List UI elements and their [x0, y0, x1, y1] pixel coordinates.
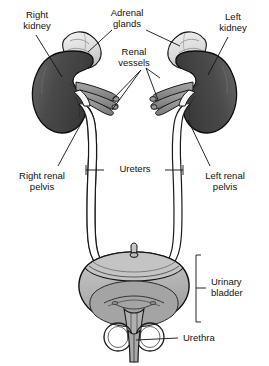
- leader-renal-vessels-b: [112, 70, 141, 110]
- urinary-system-diagram: Right kidney Adrenal glands Renal vessel…: [0, 0, 269, 366]
- label-left-kidney: Left kidney: [205, 12, 261, 33]
- label-adrenal-glands: Adrenal glands: [96, 8, 158, 29]
- label-left-renal-pelvis: Left renal pelvis: [188, 171, 262, 192]
- urinary-bladder-bracket: [196, 255, 206, 322]
- label-right-kidney: Right kidney: [8, 10, 66, 31]
- leader-renal-vessels-a: [113, 70, 141, 99]
- label-urethra: Urethra: [183, 333, 241, 344]
- label-ureters: Ureters: [105, 164, 165, 175]
- label-urinary-bladder: Urinary bladder: [211, 277, 269, 298]
- leader-urethra: [136, 338, 178, 340]
- label-right-renal-pelvis: Right renal pelvis: [6, 171, 78, 192]
- label-renal-vessels: Renal vessels: [105, 47, 163, 68]
